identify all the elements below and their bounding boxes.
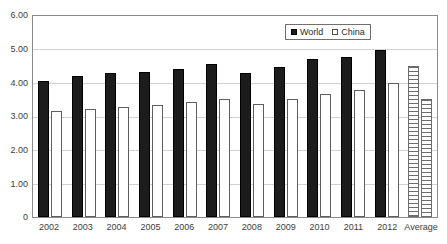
bar-group bbox=[100, 16, 134, 217]
y-axis-tick-label: 6.00 bbox=[10, 11, 28, 20]
bar-group bbox=[201, 16, 235, 217]
y-axis-tick-label: 5.00 bbox=[10, 45, 28, 54]
bar-group bbox=[403, 16, 437, 217]
bar-world bbox=[139, 72, 150, 217]
bar-group bbox=[370, 16, 404, 217]
legend-entry-china: China bbox=[332, 28, 365, 37]
bar-china bbox=[152, 105, 163, 217]
chart-legend: World China bbox=[285, 24, 371, 40]
legend-entry-world: World bbox=[291, 28, 323, 37]
bar-world bbox=[307, 59, 318, 217]
x-axis-tick-label: Average bbox=[404, 220, 438, 242]
x-axis-tick-label: 2004 bbox=[100, 220, 134, 242]
bar-world bbox=[341, 57, 352, 217]
bar-china bbox=[219, 99, 230, 217]
bar-china bbox=[85, 109, 96, 217]
x-axis-tick-label: 2005 bbox=[133, 220, 167, 242]
bar-world bbox=[240, 73, 251, 217]
bar-world bbox=[375, 50, 386, 217]
bar-group bbox=[336, 16, 370, 217]
bar-world bbox=[105, 73, 116, 217]
bar-group bbox=[302, 16, 336, 217]
x-axis-tick-label: 2008 bbox=[235, 220, 269, 242]
bar-china bbox=[253, 104, 264, 217]
x-axis-tick-label: 2003 bbox=[66, 220, 100, 242]
y-axis: 6.00 5.00 4.00 3.00 2.00 1.00 0 bbox=[0, 0, 32, 218]
bar-group bbox=[134, 16, 168, 217]
legend-label-world: World bbox=[300, 28, 323, 37]
y-axis-tick-label: 3.00 bbox=[10, 112, 28, 121]
bar-world bbox=[38, 81, 49, 217]
bar-group bbox=[235, 16, 269, 217]
bar-china bbox=[320, 94, 331, 217]
legend-label-china: China bbox=[341, 28, 365, 37]
legend-swatch-world-icon bbox=[291, 29, 297, 35]
y-axis-tick-label: 4.00 bbox=[10, 79, 28, 88]
bar-group bbox=[67, 16, 101, 217]
x-axis: 2002200320042005200620072008200920102011… bbox=[32, 220, 438, 242]
y-axis-tick-label: 0 bbox=[23, 213, 28, 222]
bar-world bbox=[206, 64, 217, 217]
bar-world bbox=[408, 66, 419, 217]
bar-group bbox=[33, 16, 67, 217]
x-axis-tick-label: 2009 bbox=[269, 220, 303, 242]
legend-swatch-china-icon bbox=[332, 29, 338, 35]
bar-china bbox=[287, 99, 298, 217]
x-axis-tick-label: 2012 bbox=[370, 220, 404, 242]
y-axis-tick-label: 1.00 bbox=[10, 180, 28, 189]
bar-china bbox=[421, 99, 432, 217]
bar-china bbox=[186, 102, 197, 217]
bar-china bbox=[118, 107, 129, 217]
bar-group bbox=[168, 16, 202, 217]
y-axis-tick-label: 2.00 bbox=[10, 146, 28, 155]
bar-group bbox=[269, 16, 303, 217]
bar-chart: 6.00 5.00 4.00 3.00 2.00 1.00 0 World Ch… bbox=[0, 0, 447, 244]
x-axis-tick-label: 2011 bbox=[336, 220, 370, 242]
x-axis-tick-label: 2010 bbox=[303, 220, 337, 242]
bar-world bbox=[72, 76, 83, 217]
bar-world bbox=[173, 69, 184, 217]
bar-china bbox=[51, 111, 62, 217]
bar-china bbox=[354, 90, 365, 217]
bar-china bbox=[388, 83, 399, 217]
bars-layer bbox=[33, 16, 437, 217]
x-axis-tick-label: 2002 bbox=[32, 220, 66, 242]
bar-world bbox=[274, 67, 285, 217]
x-axis-tick-label: 2007 bbox=[201, 220, 235, 242]
plot-area bbox=[32, 15, 438, 218]
x-axis-tick-label: 2006 bbox=[167, 220, 201, 242]
